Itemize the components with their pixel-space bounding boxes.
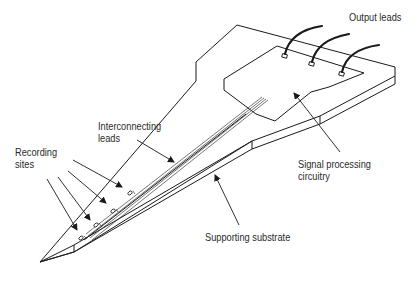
arrow-recording-site-2 <box>58 177 90 220</box>
label-supporting-substrate: Supporting substrate <box>205 231 290 243</box>
label-interconnecting-leads-line1: Interconnecting <box>98 120 161 132</box>
annotation-arrows <box>47 93 340 230</box>
arrow-recording-site-1 <box>47 179 77 230</box>
arrow-supporting-substrate <box>215 175 239 225</box>
label-interconnecting-leads: Interconnecting leads <box>98 120 161 144</box>
interconnecting-leads <box>84 97 268 240</box>
output-leads <box>285 26 379 72</box>
recording-site <box>110 208 116 213</box>
recording-site <box>93 222 99 227</box>
label-signal-processing-line2: circuitry <box>298 170 371 182</box>
signal-processing-circuitry <box>224 46 364 121</box>
label-recording-sites-line1: Recording <box>15 146 57 158</box>
output-lead-wire <box>312 34 349 62</box>
label-signal-processing-line1: Signal processing <box>298 158 371 170</box>
arrow-recording-site-4 <box>73 160 122 187</box>
label-recording-sites-line2: sites <box>15 158 57 170</box>
supporting-substrate <box>40 25 395 262</box>
label-recording-sites: Recording sites <box>15 146 57 170</box>
recording-site <box>127 190 133 195</box>
label-interconnecting-leads-line2: leads <box>98 132 161 144</box>
label-signal-processing-circuitry: Signal processing circuitry <box>298 158 371 182</box>
label-output-leads: Output leads <box>349 11 401 23</box>
